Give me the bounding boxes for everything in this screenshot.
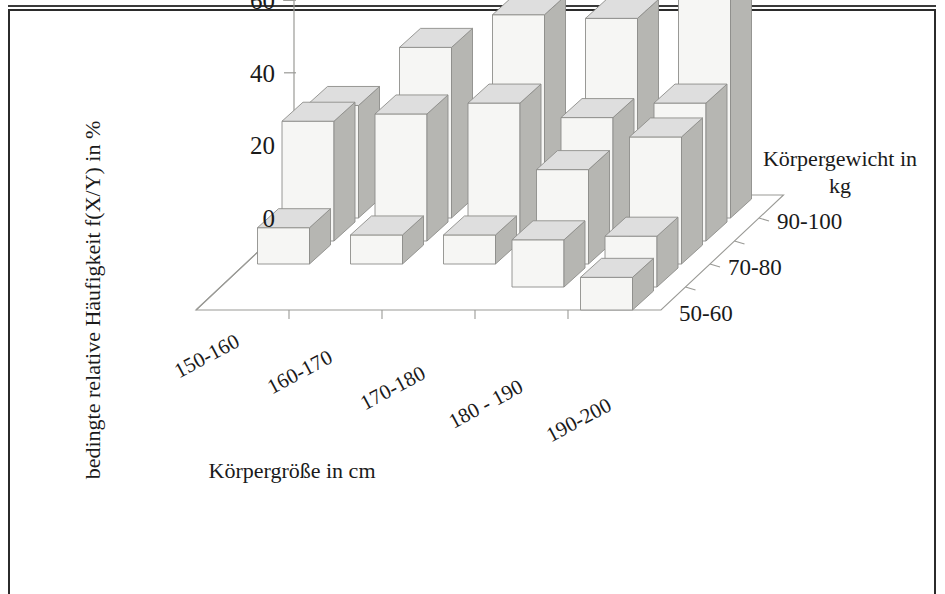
y-axis-tick-label: 20 (250, 132, 275, 159)
y-axis-tick-label: 0 (263, 205, 276, 232)
bar-180-190-60-70 (512, 221, 585, 287)
z-axis-title-line-2: kg (829, 173, 851, 198)
y-axis-tick-label: 40 (250, 60, 275, 87)
z-axis-tick-label: 50-60 (679, 301, 733, 326)
y-axis-tick-labels: 0204060 (250, 0, 275, 232)
x-axis-tick-label: 170-180 (356, 361, 429, 415)
z-axis-tick-label: 70-80 (728, 255, 782, 280)
z-axis-title-line-1: Körpergewicht in (763, 146, 917, 171)
x-axis-tick-label: 190-200 (542, 393, 615, 447)
x-axis-title: Körpergröße in cm (209, 458, 376, 483)
z-axis-tick-label: 90-100 (777, 209, 842, 234)
x-axis-tick-labels: 150-160160-170170-180180 - 190190-200 (170, 329, 615, 447)
x-axis-tick-label: 150-160 (170, 329, 243, 383)
y-axis-title: bedingte relative Häufigkeit f(X/Y) in % (80, 121, 105, 480)
x-axis-tick-label: 160-170 (263, 345, 336, 399)
x-axis-tick-label: 180 - 190 (445, 374, 527, 433)
y-axis-tick-label: 60 (250, 0, 275, 14)
